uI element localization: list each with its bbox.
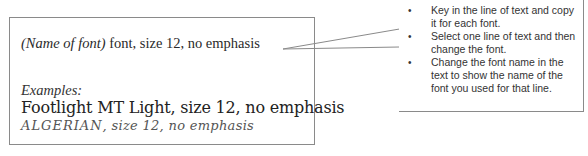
- bullet-icon: •: [408, 30, 412, 43]
- instruction-item: •Key in the line of text and copy it for…: [399, 4, 579, 30]
- instructions-callout: •Key in the line of text and copy it for…: [399, 0, 584, 112]
- bullet-icon: •: [408, 56, 412, 69]
- instruction-item: •Change the font name in the text to sho…: [399, 56, 579, 95]
- bullet-icon: •: [408, 4, 412, 17]
- instructions-list: •Key in the line of text and copy it for…: [399, 4, 579, 95]
- instruction-item: •Select one line of text and then change…: [399, 30, 579, 56]
